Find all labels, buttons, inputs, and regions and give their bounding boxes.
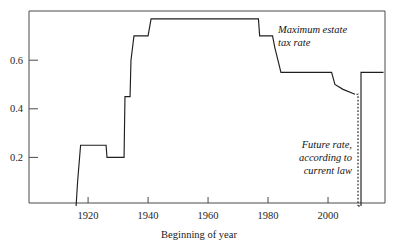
annotation-line: according to [299,152,352,163]
x-tick-label-2: 1960 [198,210,219,221]
y-tick-label-0: 0.2 [10,152,23,163]
annotation-future-rate-current-law: Future rate,according tocurrent law [299,139,352,176]
annotation-line: current law [304,165,352,176]
annotation-line: Maximum estate [277,24,347,35]
x-axis-title: Beginning of year [161,229,237,240]
y-axis-ticks [29,60,38,157]
chart-annotations: Maximum estatetax rateFuture rate,accord… [277,24,352,176]
series-line-1 [357,94,359,206]
y-tick-label-2: 0.6 [10,55,23,66]
estate-tax-rate-chart: 0.20.40.6 19201940196019802000 Maximum e… [0,0,399,252]
x-tick-label-0: 1920 [78,210,99,221]
x-axis-tick-labels: 19201940196019802000 [78,210,339,221]
x-tick-label-1: 1940 [138,210,159,221]
series-line-3 [361,72,383,206]
annotation-max-estate-tax-rate: Maximum estatetax rate [277,24,347,48]
x-axis-ticks [88,197,328,203]
x-tick-label-4: 2000 [318,210,339,221]
series-line-0 [76,19,355,206]
annotation-line: tax rate [278,37,311,48]
y-tick-label-1: 0.4 [10,103,24,114]
x-tick-label-3: 1980 [258,210,279,221]
data-series-group [76,19,383,206]
y-axis-tick-labels: 0.20.40.6 [10,55,24,163]
annotation-line: Future rate, [301,139,352,150]
chart-canvas: 0.20.40.6 19201940196019802000 Maximum e… [0,0,399,252]
